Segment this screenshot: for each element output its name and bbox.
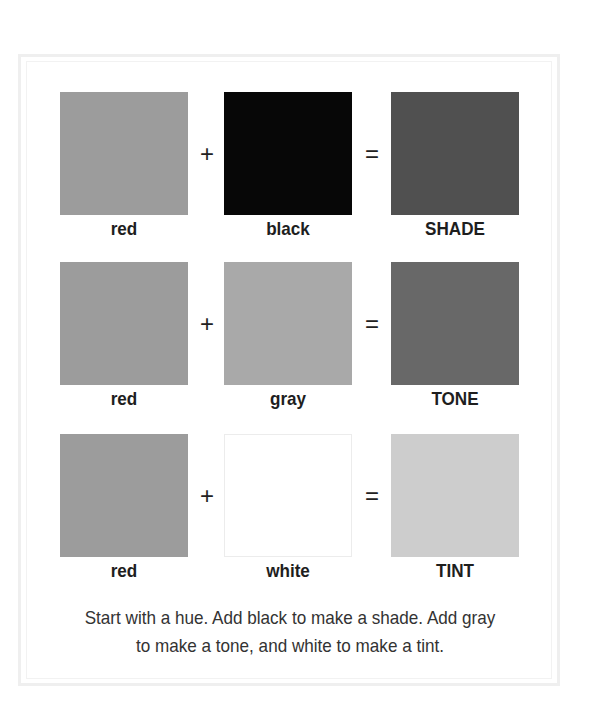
plus-sign: + [195, 140, 219, 168]
plus-sign: + [195, 310, 219, 338]
caption: Start with a hue. Add black to make a sh… [83, 604, 497, 660]
swatch-tone [391, 262, 519, 385]
swatch-red [60, 262, 188, 385]
label-tone: TONE [383, 388, 527, 410]
plus-sign: + [195, 482, 219, 510]
label-red: red [52, 560, 196, 582]
swatch-tint [391, 434, 519, 557]
label-red: red [52, 388, 196, 410]
swatch-white [224, 434, 352, 557]
swatch-gray [224, 262, 352, 385]
label-shade: SHADE [383, 218, 527, 240]
label-black: black [216, 218, 360, 240]
equals-sign: = [360, 482, 384, 510]
equals-sign: = [360, 310, 384, 338]
swatch-red [60, 434, 188, 557]
swatch-red [60, 92, 188, 215]
label-gray: gray [216, 388, 360, 410]
swatch-shade [391, 92, 519, 215]
equals-sign: = [360, 140, 384, 168]
label-red: red [52, 218, 196, 240]
label-tint: TINT [383, 560, 527, 582]
swatch-black [224, 92, 352, 215]
label-white: white [216, 560, 360, 582]
